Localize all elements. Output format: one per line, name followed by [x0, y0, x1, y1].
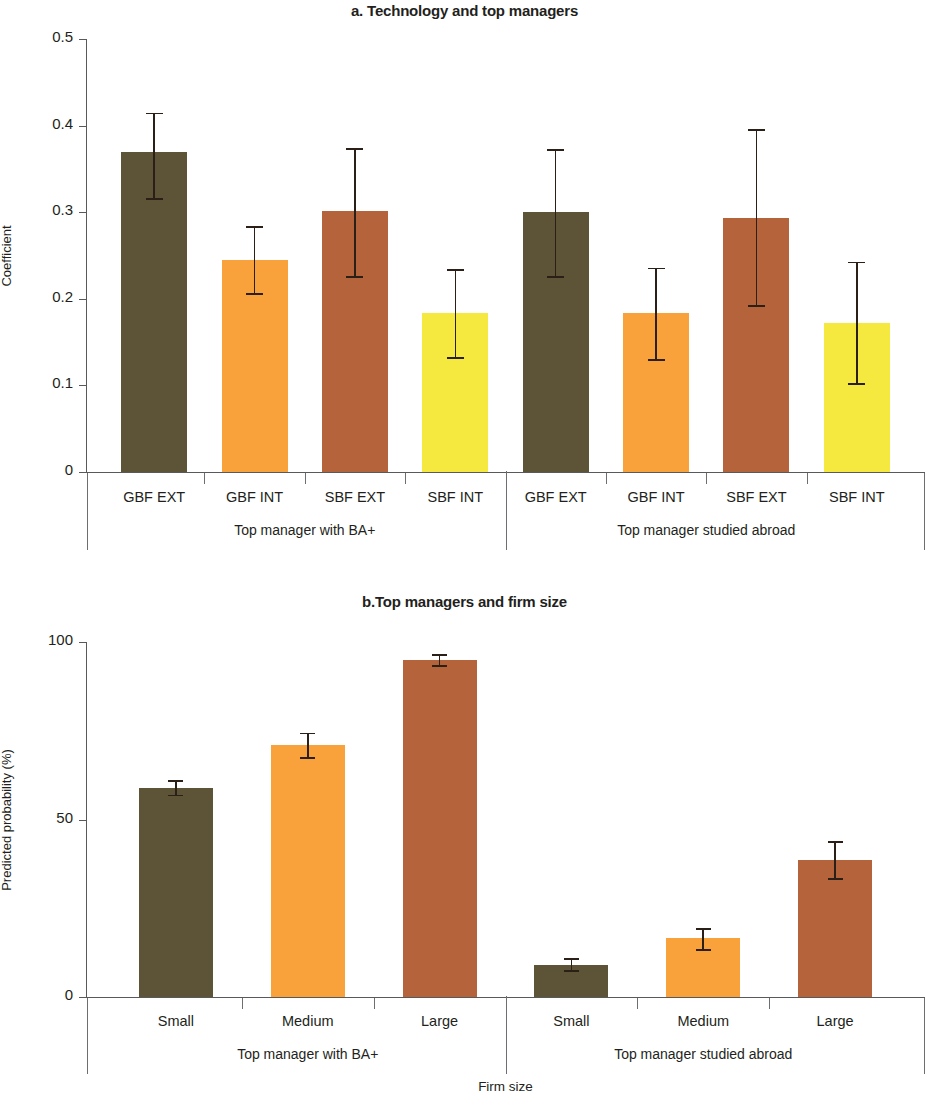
error-bar-cap-top [696, 928, 711, 930]
bar [403, 660, 477, 997]
x-axis-category-label: Large [374, 1013, 506, 1029]
x-axis-category-label: Medium [637, 1013, 769, 1029]
x-axis-category-label: SBF EXT [706, 489, 806, 505]
error-bar-cap-top [828, 841, 843, 843]
error-bar-line [307, 733, 309, 758]
error-bar-cap-top [547, 149, 564, 151]
error-bar-line [756, 129, 758, 305]
x-axis-category-label: GBF EXT [104, 489, 204, 505]
y-axis-tick-label: 0.3 [26, 201, 73, 218]
x-axis-category-label: Small [110, 1013, 242, 1029]
bar [121, 152, 187, 472]
x-axis-category-label: Medium [242, 1013, 374, 1029]
error-bar-line [175, 780, 177, 794]
bar [271, 745, 345, 997]
figure-root: a. Technology and top managers 00.10.20.… [0, 0, 929, 1110]
error-bar-cap-bottom [748, 305, 765, 307]
panel-a-title: a. Technology and top managers [0, 2, 929, 19]
panel-a: a. Technology and top managers 00.10.20.… [0, 0, 929, 580]
y-axis-title: Coefficient [0, 225, 14, 286]
y-axis-tick-label: 0 [26, 461, 73, 478]
x-axis-category-tick [204, 473, 205, 484]
error-bar-cap-top [748, 129, 765, 131]
y-axis-line [86, 642, 87, 997]
x-axis-category-label: SBF EXT [305, 489, 405, 505]
error-bar-cap-bottom [696, 949, 711, 951]
error-bar-line [702, 928, 704, 949]
panel-b: b.Top managers and firm size 050100Predi… [0, 585, 929, 1110]
y-axis-tick [79, 299, 86, 300]
x-axis-category-tick [405, 473, 406, 484]
x-axis-category-tick [706, 473, 707, 484]
panel-b-title: b.Top managers and firm size [0, 593, 929, 610]
error-bar-cap-bottom [828, 878, 843, 880]
y-axis-tick [79, 472, 86, 473]
x-axis-group-divider [506, 996, 507, 1074]
x-axis-category-tick [637, 998, 638, 1009]
error-bar-cap-top [246, 226, 263, 228]
error-bar-cap-bottom [564, 970, 579, 972]
x-axis-frame-right [924, 473, 925, 550]
x-axis-category-label: SBF INT [405, 489, 505, 505]
error-bar-line [571, 958, 573, 970]
x-axis-frame-left [87, 998, 88, 1074]
y-axis-tick [79, 820, 86, 821]
x-axis-category-tick [769, 998, 770, 1009]
x-axis-category-label: Small [506, 1013, 638, 1029]
x-axis-frame-left [87, 473, 88, 550]
error-bar-cap-bottom [246, 293, 263, 295]
error-bar-cap-bottom [648, 359, 665, 361]
x-axis-group-label: Top manager studied abroad [506, 522, 908, 538]
y-axis-tick-label: 0 [26, 986, 73, 1003]
error-bar-line [455, 269, 457, 356]
x-axis-category-label: GBF INT [606, 489, 706, 505]
y-axis-tick [79, 385, 86, 386]
error-bar-cap-bottom [346, 276, 363, 278]
error-bar-cap-top [447, 269, 464, 271]
error-bar-line [655, 268, 657, 360]
bar [798, 860, 872, 997]
error-bar-cap-top [300, 733, 315, 735]
y-axis-tick-label: 0.2 [26, 288, 73, 305]
error-bar-line [254, 226, 256, 293]
x-axis-group-label: Top manager studied abroad [506, 1046, 902, 1062]
error-bar-cap-bottom [447, 357, 464, 359]
x-axis-category-label: GBF INT [204, 489, 304, 505]
y-axis-tick-label: 100 [26, 631, 73, 648]
y-axis-tick-label: 50 [26, 809, 73, 826]
y-axis-tick-label: 0.5 [26, 28, 73, 45]
error-bar-line [555, 149, 557, 276]
error-bar-cap-top [564, 958, 579, 960]
y-axis-title: Predicted probability (%) [0, 749, 14, 891]
y-axis-tick-label: 0.1 [26, 374, 73, 391]
error-bar-line [856, 262, 858, 383]
error-bar-cap-top [346, 148, 363, 150]
bar [139, 788, 213, 997]
x-axis-category-tick [305, 473, 306, 484]
error-bar-cap-top [168, 780, 183, 782]
error-bar-cap-bottom [168, 795, 183, 797]
error-bar-cap-top [432, 654, 447, 656]
error-bar-cap-top [648, 268, 665, 270]
x-axis-title: Firm size [86, 1079, 925, 1094]
error-bar-cap-top [146, 113, 163, 115]
y-axis-tick [79, 126, 86, 127]
x-axis-category-label: SBF INT [807, 489, 907, 505]
x-axis-category-tick [374, 998, 375, 1009]
y-axis-tick [79, 212, 86, 213]
x-axis-frame-right [924, 998, 925, 1074]
error-bar-cap-bottom [432, 665, 447, 667]
x-axis-category-tick [606, 473, 607, 484]
y-axis-tick [79, 997, 86, 998]
x-axis-category-tick [242, 998, 243, 1009]
y-axis-line [86, 39, 87, 472]
x-axis-category-label: Large [769, 1013, 901, 1029]
error-bar-cap-bottom [146, 198, 163, 200]
error-bar-line [354, 148, 356, 276]
y-axis-tick [79, 39, 86, 40]
y-axis-tick-label: 0.4 [26, 115, 73, 132]
y-axis-tick [79, 642, 86, 643]
error-bar-cap-bottom [300, 757, 315, 759]
error-bar-line [834, 841, 836, 878]
error-bar-cap-bottom [848, 383, 865, 385]
